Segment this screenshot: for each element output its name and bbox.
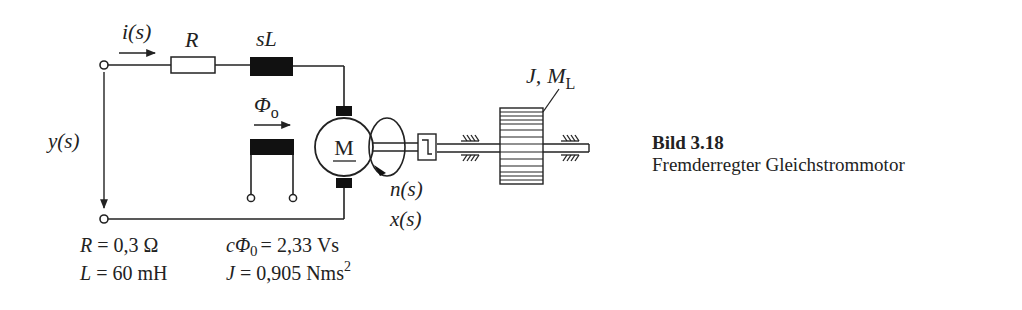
caption-text: Fremderregter Gleichstrommotor <box>652 154 905 176</box>
load-label: J,ML <box>526 63 575 92</box>
flux-label: Φo <box>254 92 279 121</box>
motor-icon: M <box>315 106 373 188</box>
param-R: R= 0,3 Ω <box>79 234 158 256</box>
top-terminal <box>100 61 108 69</box>
load-inertia-icon <box>500 108 543 184</box>
field-winding-icon <box>247 139 296 202</box>
bearing-right-icon <box>561 135 579 161</box>
inductor-icon <box>250 57 293 76</box>
rotation-arrow-icon <box>369 118 405 176</box>
speed-label: n(s) <box>390 177 423 201</box>
param-L: L= 60 mH <box>79 262 167 284</box>
bottom-terminal <box>100 215 108 223</box>
param-cPhi: cΦ0= 2,33 Vs <box>226 234 339 259</box>
param-J: J= 0,905 Nms2 <box>226 259 351 284</box>
caption-title: Bild 3.18 <box>652 132 905 154</box>
bearing-left-icon <box>461 135 479 161</box>
inductor-label: sL <box>256 26 277 51</box>
parameter-list: R= 0,3 Ω L= 60 mH cΦ0= 2,33 Vs J= 0,905 … <box>79 234 351 284</box>
resistor-icon <box>171 57 215 73</box>
position-label: x(s) <box>389 207 421 231</box>
armature-circuit <box>108 65 344 219</box>
resistor-label: R <box>184 27 199 52</box>
coupling-icon <box>418 134 436 160</box>
svg-text:M: M <box>334 135 354 160</box>
load-leader-line <box>543 89 559 112</box>
voltage-label: y(s) <box>46 129 79 153</box>
current-label: i(s) <box>122 19 151 44</box>
figure-caption: Bild 3.18 Fremderregter Gleichstrommotor <box>652 132 905 176</box>
